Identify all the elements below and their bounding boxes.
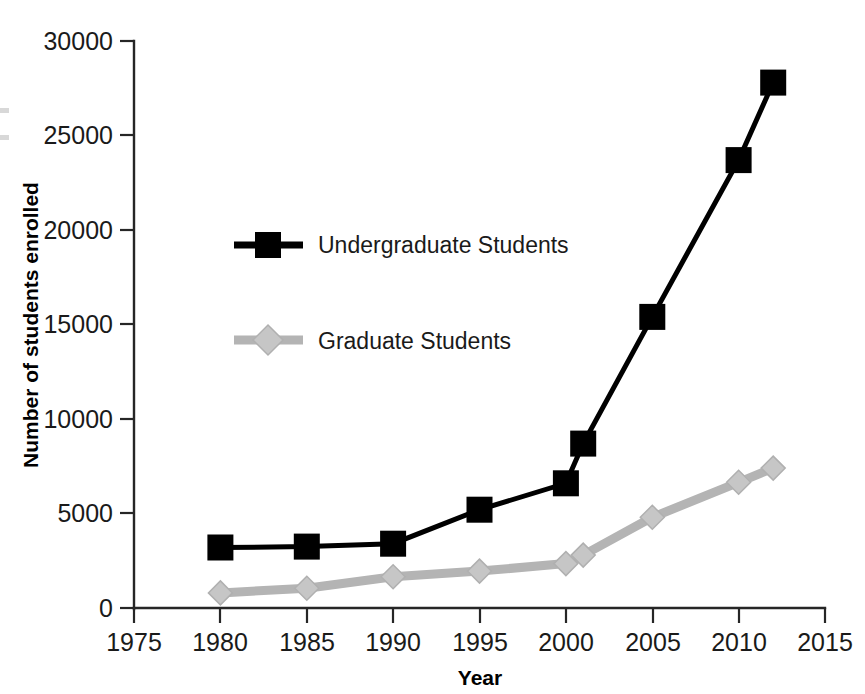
data-point-graduate-1985[interactable] [295,576,319,600]
y-axis-title: Number of students enrolled [19,182,42,468]
data-point-graduate-2012[interactable] [761,456,785,480]
y-tick-label-5000: 5000 [57,499,113,527]
legend-entry-undergraduate[interactable]: Undergraduate Students [234,232,569,258]
x-axis-title: Year [458,666,502,689]
legend: Undergraduate Students Graduate Students [234,232,569,355]
x-tick-label-1975: 1975 [106,628,162,656]
x-axis: 1975 1980 1985 1990 1995 2000 2005 2010 … [106,608,853,689]
y-tick-label-25000: 25000 [43,121,113,149]
series-path-graduate [220,468,773,593]
x-tick-label-1980: 1980 [192,628,248,656]
data-point-undergraduate-2001[interactable] [570,431,596,457]
y-tick-label-10000: 10000 [43,405,113,433]
x-tick-label-2000: 2000 [538,628,594,656]
y-tick-label-30000: 30000 [43,27,113,55]
line-chart: 30000 25000 20000 15000 10000 5000 0 Num… [0,0,865,694]
legend-square-marker-icon [255,232,281,258]
x-tick-label-1995: 1995 [452,628,508,656]
data-point-undergraduate-2010[interactable] [726,147,752,173]
series-graduate-students [208,456,785,605]
y-tick-label-15000: 15000 [43,310,113,338]
series-undergraduate-students [207,70,786,561]
data-point-graduate-1995[interactable] [468,559,492,583]
x-tick-label-1985: 1985 [279,628,335,656]
data-point-graduate-1990[interactable] [381,565,405,589]
x-tick-label-2005: 2005 [625,628,681,656]
y-tick-label-20000: 20000 [43,216,113,244]
edge-artifact-1 [0,108,9,113]
x-tick-label-1990: 1990 [365,628,421,656]
data-point-undergraduate-2012[interactable] [760,70,786,96]
y-axis: 30000 25000 20000 15000 10000 5000 0 Num… [19,27,134,622]
y-tick-label-0: 0 [99,594,113,622]
data-point-undergraduate-1990[interactable] [380,531,406,557]
data-point-graduate-1980[interactable] [208,581,232,605]
legend-entry-graduate[interactable]: Graduate Students [234,325,511,355]
chart-page: 30000 25000 20000 15000 10000 5000 0 Num… [0,0,865,694]
x-tick-label-2010: 2010 [711,628,767,656]
x-tick-label-2015: 2015 [797,628,853,656]
data-point-undergraduate-1980[interactable] [207,535,233,561]
legend-label-graduate: Graduate Students [318,328,511,354]
data-point-undergraduate-2000[interactable] [553,470,579,496]
data-point-undergraduate-1995[interactable] [467,497,493,523]
legend-diamond-marker-icon [253,325,283,355]
data-point-undergraduate-1985[interactable] [294,534,320,560]
series-path-undergraduate [220,83,773,548]
data-point-graduate-2010[interactable] [727,470,751,494]
data-point-undergraduate-2005[interactable] [639,304,665,330]
edge-artifact-2 [0,135,9,140]
legend-label-undergraduate: Undergraduate Students [318,232,569,258]
